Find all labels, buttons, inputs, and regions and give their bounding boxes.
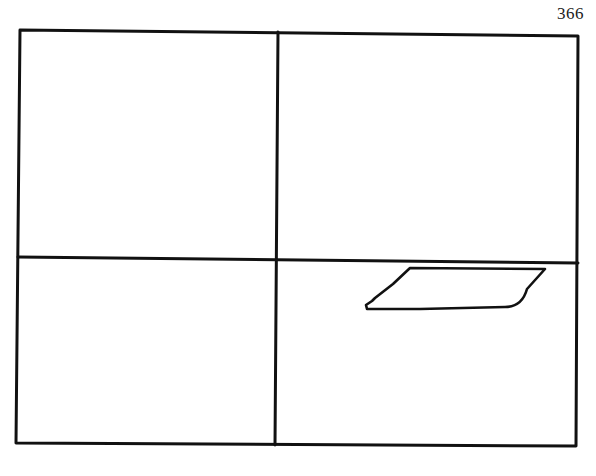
outer-frame (16, 30, 578, 446)
quadrant-diagram (0, 0, 596, 476)
horizontal-divider (18, 257, 578, 263)
parallelogram-shape (366, 268, 545, 309)
vertical-divider (275, 32, 278, 445)
